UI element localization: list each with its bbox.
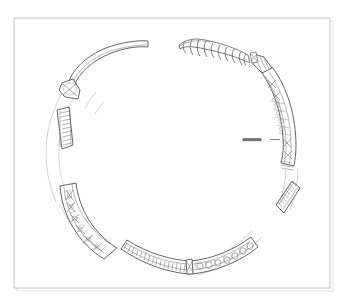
figure-root: Reconstructed segmented necklace (line d… xyxy=(0,0,355,301)
line-drawing-canvas xyxy=(0,0,355,301)
